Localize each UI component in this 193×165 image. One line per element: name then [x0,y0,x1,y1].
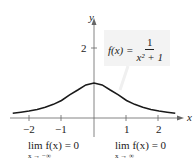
y-axis-label: y [89,12,94,23]
function-fraction: 1 x² + 1 [136,36,163,63]
function-label: f(x) = 1 x² + 1 [108,36,163,63]
limit-right-subscript: x → ∞ [115,152,166,160]
x-tick-label-2: 2 [156,124,162,135]
function-denominator: x² + 1 [136,50,163,63]
limit-right-annotation: lim f(x) = 0 x → ∞ [115,139,166,160]
function-numerator: 1 [145,36,155,50]
x-tick-label-minus-1: −1 [55,124,67,135]
x-tick-label-minus-2: −2 [23,124,35,135]
y-tick-label-2: 2 [81,43,87,54]
limit-left-text: lim f(x) = 0 [28,139,79,151]
x-axis-arrow-icon [177,116,184,121]
limit-left-subscript: x → −∞ [28,152,79,160]
x-tick-label-1: 1 [124,124,130,135]
label-leader [120,66,128,90]
limit-left-annotation: lim f(x) = 0 x → −∞ [28,139,79,160]
limit-right-text: lim f(x) = 0 [115,139,166,151]
x-axis-label: x [187,112,192,123]
function-lhs: f(x) = [108,44,133,56]
